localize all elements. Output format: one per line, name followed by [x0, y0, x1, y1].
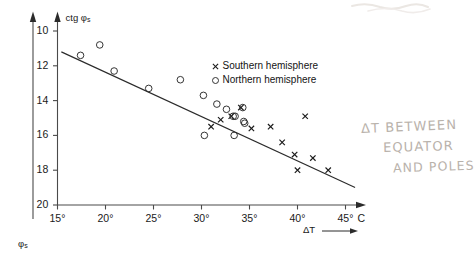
x-axis-title: ΔT: [303, 224, 315, 235]
x-axis-unit-label: C: [358, 212, 366, 224]
x-tick-label: 20°: [97, 212, 113, 224]
legend-label-southern: Southern hemisphere: [223, 60, 319, 71]
data-point-circle: [201, 132, 208, 139]
y-axis-secondary-title: φs: [18, 238, 28, 249]
x-axis-label-arrow-head: [350, 228, 358, 234]
y-tick-label-primary: 16: [37, 128, 49, 140]
legend-marker-circle: [213, 78, 219, 84]
y-tick-label-primary: 20: [37, 198, 49, 210]
y-tick-label-primary: 18: [37, 163, 49, 175]
data-point-circle: [200, 92, 207, 99]
trend-line: [61, 52, 355, 188]
handwritten-note-line3: AND POLES: [393, 158, 475, 176]
pencil-smudge: [368, 9, 430, 13]
x-tick-label: 45°: [337, 212, 353, 224]
data-point-circle: [223, 106, 230, 113]
y-tick-label-primary: 14: [37, 94, 49, 106]
data-point-circle: [231, 132, 238, 139]
handwritten-note-line2: EQUATOR: [383, 138, 454, 155]
data-point-circle: [177, 76, 184, 83]
x-axis-arrow: [356, 202, 366, 208]
y-tick-label-primary: 10: [37, 24, 49, 36]
x-tick-label: 15°: [49, 212, 65, 224]
data-point-circle: [96, 42, 103, 49]
x-tick-label: 30°: [193, 212, 209, 224]
y-axis-primary-arrow: [54, 12, 60, 23]
series-southern: [208, 105, 331, 173]
x-tick-label: 25°: [145, 212, 161, 224]
data-point-circle: [214, 101, 221, 108]
y-axis-primary-title: ctg φs: [66, 12, 91, 23]
y-axis-secondary-arrow: [30, 12, 36, 23]
y-tick-label-primary: 12: [37, 59, 49, 71]
data-point-circle: [111, 68, 118, 75]
legend-label-northern: Northern hemisphere: [223, 74, 317, 85]
x-tick-label: 40°: [289, 212, 305, 224]
x-tick-label: 35°: [241, 212, 257, 224]
series-northern: [77, 42, 248, 139]
data-point-circle: [77, 52, 84, 59]
data-point-circle: [145, 85, 152, 92]
